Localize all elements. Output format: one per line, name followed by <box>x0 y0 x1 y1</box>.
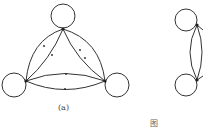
node-right <box>103 79 106 82</box>
arrow-mark <box>64 88 66 90</box>
self-loop-lower <box>175 74 197 96</box>
edge-left-right-lower <box>26 81 105 90</box>
self-loop-right <box>105 73 129 97</box>
edge-top-left-outer <box>26 29 63 81</box>
self-loop-upper <box>175 9 197 31</box>
edge-upper-lower-right <box>197 25 202 80</box>
graph-diagram <box>0 0 203 127</box>
panel-b <box>175 9 203 96</box>
edge-upper-lower-left <box>190 25 197 80</box>
edge-top-left-inner <box>26 29 63 81</box>
figure-caption: 图 <box>150 117 159 127</box>
arrow-mark <box>65 73 67 75</box>
self-loop-top <box>51 4 75 28</box>
node-top <box>61 27 64 30</box>
panel-a-label: (a) <box>58 103 69 112</box>
self-loop-left <box>2 73 26 97</box>
node-left <box>24 79 27 82</box>
arrow-mark <box>43 45 45 47</box>
arrow-mark <box>79 49 81 51</box>
arrow-mark <box>84 57 86 59</box>
node-lower <box>195 78 198 81</box>
panel-a <box>2 4 129 97</box>
node-upper <box>195 23 198 26</box>
arrow-mark <box>51 54 53 56</box>
